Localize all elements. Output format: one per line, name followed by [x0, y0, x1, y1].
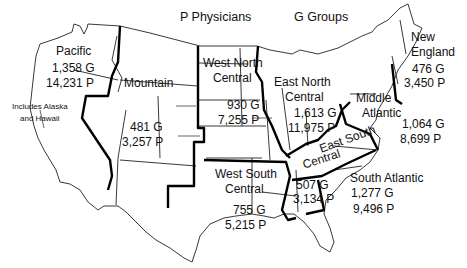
label-sa-groups: 1,277 G [351, 186, 394, 200]
label-esc-physicians: 3,134 P [293, 192, 334, 206]
label-wsc-name-2: Central [225, 182, 264, 196]
label-ne-name-2: England [411, 45, 455, 59]
label-ma-name-1: Middle [356, 91, 391, 105]
label-mountain-name: Mountain [124, 76, 173, 90]
label-wsc-physicians: 5,215 P [225, 218, 266, 232]
label-mountain-groups: 481 G [130, 120, 163, 134]
label-ne-physicians: 3,450 P [404, 76, 445, 90]
label-pacific-note-2: and Hawaii [20, 113, 60, 125]
boundary-mountain-westcentral [168, 46, 204, 208]
label-ne-name-1: New [411, 30, 435, 44]
label-enc-name-1: East North [274, 75, 331, 89]
label-enc-physicians: 11,975 P [288, 121, 335, 135]
label-pacific-groups: 1,358 G [52, 61, 95, 75]
label-pacific-note-1: Includes Alaska [12, 101, 68, 113]
label-ne-groups: 476 G [412, 62, 445, 76]
label-sa-physicians: 9,496 P [353, 202, 394, 216]
label-wnc-physicians: 7,255 P [218, 113, 259, 127]
label-pacific-physicians: 14,231 P [46, 76, 94, 90]
label-enc-name-2: Central [285, 90, 324, 104]
label-ma-name-2: Atlantic [362, 106, 401, 120]
legend-groups: G Groups [294, 10, 348, 24]
label-wnc-name-2: Central [213, 71, 252, 85]
label-esc-groups: 507 G [296, 178, 329, 192]
label-wsc-name-1: West South [215, 167, 277, 181]
label-ma-physicians: 8,699 P [400, 132, 441, 146]
legend-physicians: P Physicians [180, 10, 251, 24]
label-wnc-groups: 930 G [227, 98, 260, 112]
label-wsc-groups: 755 G [233, 203, 266, 217]
label-enc-groups: 1,613 G [294, 106, 337, 120]
label-ma-groups: 1,064 G [402, 117, 445, 131]
boundary-new-england [392, 64, 402, 104]
label-mountain-physicians: 3,257 P [122, 135, 163, 149]
label-wnc-name-1: West North [203, 56, 263, 70]
label-sa-name: South Atlantic [350, 171, 423, 185]
label-pacific-name: Pacific [56, 44, 91, 58]
